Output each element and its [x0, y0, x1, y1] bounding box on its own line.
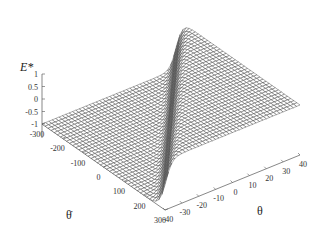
y-tick: [197, 194, 199, 196]
z-tick-label: -0.5: [25, 108, 38, 117]
y-tick-label: -30: [180, 208, 191, 217]
y-tick-label: -40: [163, 215, 174, 224]
y-tick-label: -10: [213, 194, 224, 203]
y-tick: [264, 167, 266, 169]
x-tick-label: 200: [134, 202, 146, 211]
y-axis-theta: -40-30-20-10010203040: [163, 153, 307, 224]
z-tick-label: -1: [31, 120, 38, 129]
y-tick-label: 40: [299, 160, 307, 169]
x-tick-label: -100: [71, 159, 86, 168]
y-tick-label: -20: [196, 201, 207, 210]
y-tick: [281, 160, 283, 162]
z-tick-label: 0: [34, 95, 38, 104]
z-tick-label: 0.5: [28, 83, 38, 92]
z-tick-label: 1: [34, 70, 38, 79]
y-axis-label: θ: [257, 204, 263, 218]
x-tick-label: -200: [50, 144, 65, 153]
x-tick-label: 100: [113, 187, 125, 196]
y-tick: [214, 187, 216, 189]
x-tick-label: -300: [30, 130, 45, 139]
z-axis-label: E*: [19, 60, 33, 74]
y-tick: [298, 153, 300, 155]
y-tick-label: 30: [282, 167, 290, 176]
y-tick: [231, 181, 233, 183]
z-axis: 10.50-0.5-1: [25, 70, 45, 138]
x-tick: [165, 209, 168, 210]
x-tick-label: 0: [97, 173, 101, 182]
y-tick-label: 10: [248, 181, 256, 190]
surface-mesh: [42, 28, 300, 201]
x-axis-label: θ̇: [66, 208, 73, 222]
y-tick: [180, 201, 182, 203]
surface-plot: 10.50-0.5-1 -300-200-1000100200300 -40-3…: [0, 0, 313, 237]
y-tick: [247, 174, 249, 176]
y-tick-label: 0: [234, 188, 238, 197]
y-tick-label: 20: [265, 174, 273, 183]
